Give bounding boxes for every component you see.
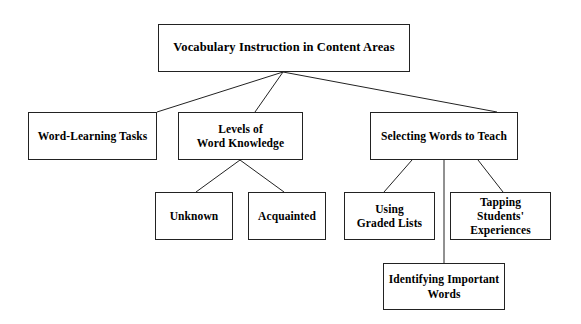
node-word-learning-tasks[interactable]: Word-Learning Tasks bbox=[28, 112, 157, 160]
edge-levels-to-unknown bbox=[196, 160, 240, 192]
edge-selecting-to-using-graded-lists bbox=[384, 160, 412, 192]
node-unknown-label: Unknown bbox=[166, 209, 223, 223]
node-levels-of-word-knowledge-label: Levels of Word Knowledge bbox=[193, 122, 288, 150]
node-levels-of-word-knowledge[interactable]: Levels of Word Knowledge bbox=[178, 112, 303, 160]
node-selecting-words-to-teach-label: Selecting Words to Teach bbox=[377, 129, 511, 143]
edge-levels-to-acquainted bbox=[240, 160, 284, 192]
node-using-graded-lists[interactable]: Using Graded Lists bbox=[344, 192, 435, 240]
node-root-label: Vocabulary Instruction in Content Areas bbox=[169, 40, 398, 55]
node-acquainted[interactable]: Acquainted bbox=[248, 192, 326, 240]
node-identifying-important-words-label: Identifying Important Words bbox=[385, 272, 503, 300]
node-identifying-important-words[interactable]: Identifying Important Words bbox=[383, 263, 505, 310]
diagram-canvas: Vocabulary Instruction in Content Areas … bbox=[0, 0, 581, 324]
edge-root-to-levels-of-word-knowledge bbox=[255, 72, 283, 112]
node-root[interactable]: Vocabulary Instruction in Content Areas bbox=[158, 24, 410, 72]
node-word-learning-tasks-label: Word-Learning Tasks bbox=[34, 129, 152, 143]
edge-selecting-to-tapping-students-experiences bbox=[478, 160, 503, 192]
node-acquainted-label: Acquainted bbox=[254, 209, 320, 223]
edge-root-to-word-learning-tasks bbox=[157, 72, 283, 112]
node-tapping-students-experiences-label: Tapping Students' Experiences bbox=[451, 195, 550, 237]
node-tapping-students-experiences[interactable]: Tapping Students' Experiences bbox=[450, 192, 551, 240]
node-unknown[interactable]: Unknown bbox=[155, 192, 233, 240]
node-using-graded-lists-label: Using Graded Lists bbox=[353, 202, 426, 230]
edge-root-to-selecting-words-to-teach bbox=[283, 72, 497, 112]
node-selecting-words-to-teach[interactable]: Selecting Words to Teach bbox=[370, 112, 518, 160]
